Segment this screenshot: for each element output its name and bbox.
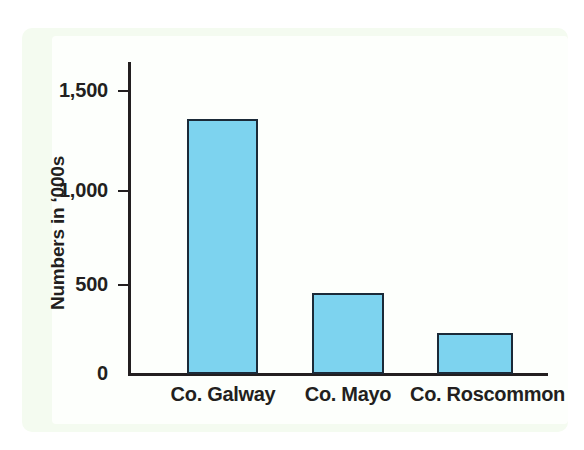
y-tick-mark-1500 (118, 90, 129, 92)
y-tick-mark-1000 (118, 190, 129, 192)
bar-co-roscommon[interactable] (437, 333, 513, 374)
x-tick-label-co-galway: Co. Galway (162, 383, 284, 406)
bar-co-galway[interactable] (187, 119, 258, 374)
y-tick-label-500: 500 (38, 273, 108, 296)
x-tick-label-co-roscommon: Co. Roscommon (410, 383, 540, 406)
y-tick-label-1500: 1,500 (38, 79, 108, 102)
y-tick-mark-500 (118, 284, 129, 286)
y-tick-label-1000: 1,000 (38, 179, 108, 202)
chart-figure: Numbers in ‘000s 1,500 1,000 500 0 Co. G… (0, 0, 584, 450)
y-axis-title: Numbers in ‘000s (47, 138, 69, 328)
y-axis-line (128, 62, 131, 375)
y-tick-label-0: 0 (38, 362, 108, 385)
bar-chart: Numbers in ‘000s 1,500 1,000 500 0 Co. G… (0, 0, 584, 450)
bar-co-mayo[interactable] (312, 293, 384, 374)
x-tick-label-co-mayo: Co. Mayo (294, 383, 402, 406)
